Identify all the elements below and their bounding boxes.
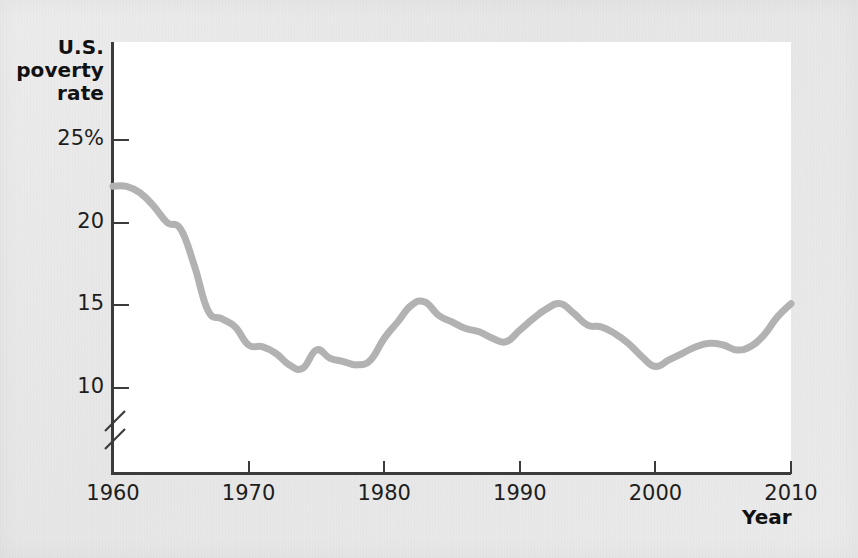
x-tick-label-4: 2000 xyxy=(629,481,682,505)
x-axis-title: Year xyxy=(742,505,792,529)
x-tick-label-5: 2010 xyxy=(764,481,817,505)
x-tick-label-3: 1990 xyxy=(493,481,546,505)
y-tick-label-wrap-2: 15 xyxy=(0,291,104,313)
y-tick-label-wrap-3: 10 xyxy=(0,374,104,396)
y-axis-title-line-3: rate xyxy=(0,82,104,105)
y-tick-label-0: 25% xyxy=(0,126,104,150)
x-tick-label-wrap-5: 2010 xyxy=(736,481,846,505)
y-tick-label-1: 20 xyxy=(0,209,104,233)
poverty-rate-figure: U.S. poverty rate 25%201510 196019701980… xyxy=(0,0,858,558)
x-tick-label-1: 1970 xyxy=(222,481,275,505)
x-tick-label-wrap-3: 1990 xyxy=(465,481,575,505)
poverty-rate-line-series xyxy=(113,42,791,474)
x-tick-label-wrap-2: 1980 xyxy=(329,481,439,505)
x-tick-label-wrap-0: 1960 xyxy=(58,481,168,505)
y-axis-title-line-2: poverty xyxy=(0,59,104,82)
y-tick-label-wrap-0: 25% xyxy=(0,126,104,148)
x-tick-label-0: 1960 xyxy=(86,481,139,505)
y-tick-label-3: 10 xyxy=(0,374,104,398)
x-tick-label-2: 1980 xyxy=(357,481,410,505)
y-tick-label-2: 15 xyxy=(0,291,104,315)
x-tick-label-wrap-4: 2000 xyxy=(600,481,710,505)
x-tick-label-wrap-1: 1970 xyxy=(194,481,304,505)
y-axis-title: U.S. poverty rate xyxy=(0,36,104,106)
y-axis-title-line-1: U.S. xyxy=(0,36,104,59)
y-tick-label-wrap-1: 20 xyxy=(0,209,104,231)
series-path-0 xyxy=(113,186,791,370)
